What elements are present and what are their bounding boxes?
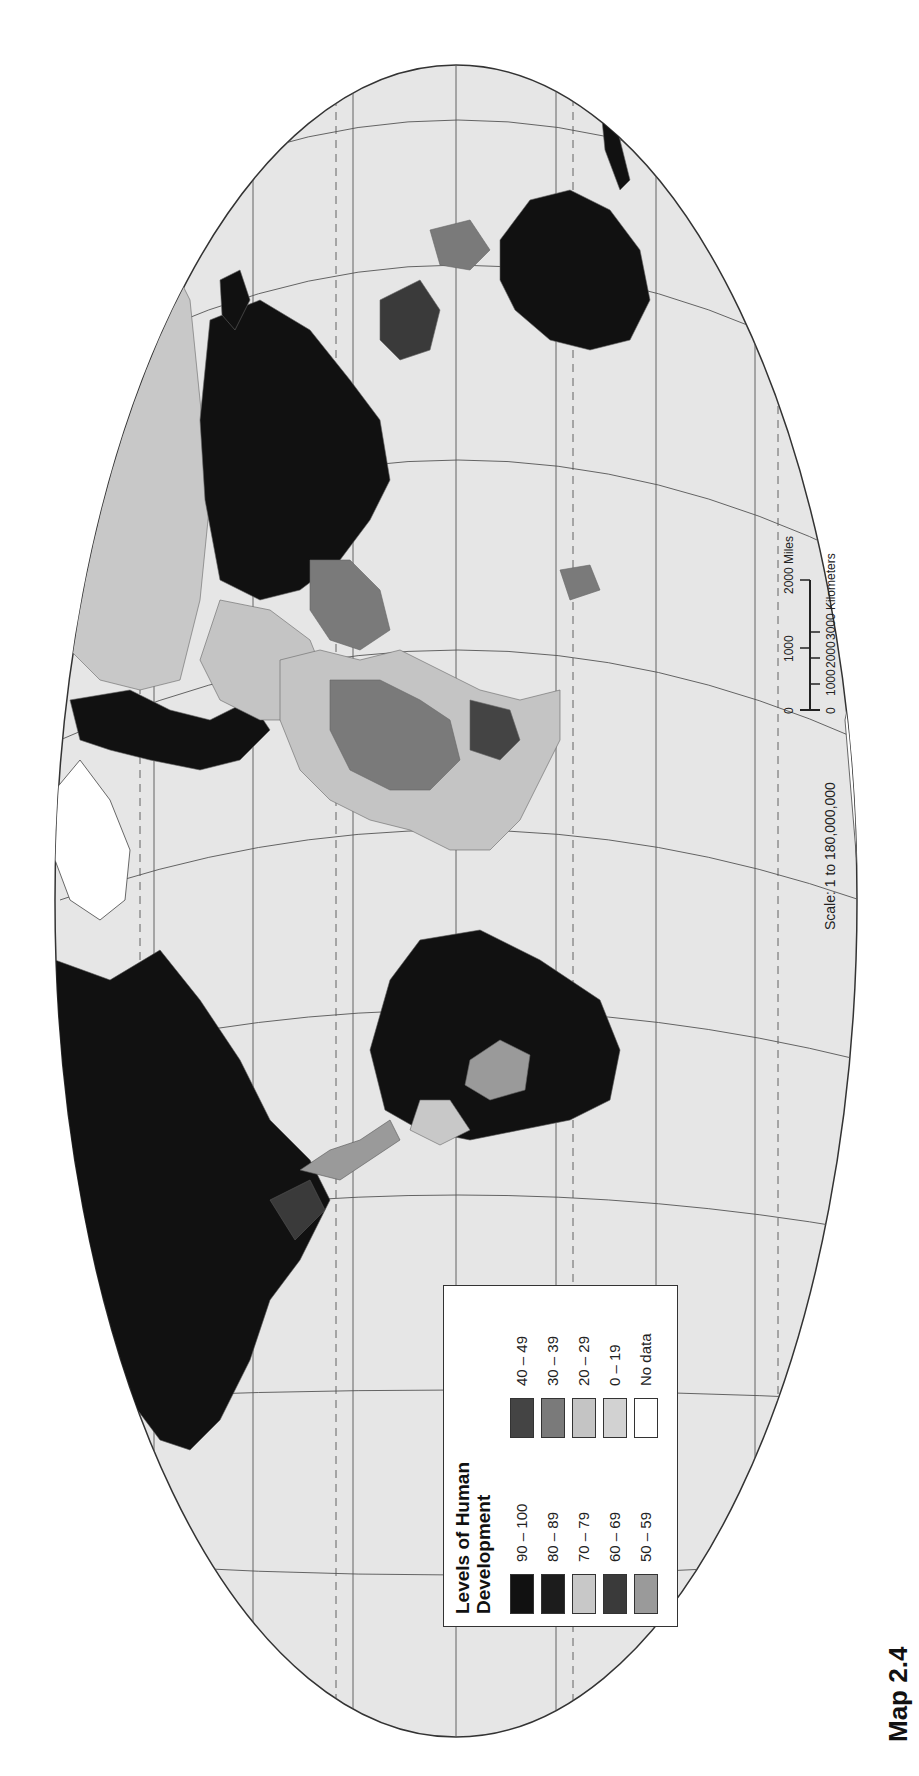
legend-item: 80 – 89 [537,1504,568,1614]
legend-label: No data [637,1333,654,1386]
legend-swatch [603,1574,627,1614]
legend-item: 20 – 29 [568,1333,599,1438]
legend-item: 40 – 49 [506,1333,537,1438]
legend-label: 30 – 39 [544,1336,561,1386]
legend-swatch [603,1398,627,1438]
legend-item: 30 – 39 [537,1333,568,1438]
scale-km-3000: 3000 Kilometers [824,553,838,640]
legend-swatch [634,1574,658,1614]
legend-label: 90 – 100 [513,1504,530,1562]
legend-swatch [541,1574,565,1614]
scale-bar-graphic [770,500,850,720]
legend-label: 50 – 59 [637,1512,654,1562]
legend-item: 0 – 19 [599,1333,630,1438]
scale-miles-1000: 1000 [782,635,796,662]
scale-km-2000: 2000 [824,641,838,668]
legend-swatch [634,1398,658,1438]
legend-swatch [572,1574,596,1614]
scale-miles-0: 0 [782,707,796,714]
legend-item: 60 – 69 [599,1504,630,1614]
map-label: Map 2.4 [880,1612,916,1742]
legend-swatch [510,1574,534,1614]
legend-item: 90 – 100 [506,1504,537,1614]
legend-label: 60 – 69 [606,1512,623,1562]
map-number: Map 2.4 [880,1612,916,1742]
legend-label: 80 – 89 [544,1512,561,1562]
legend-column-1: 90 – 100 80 – 89 70 – 79 60 – 69 50 – 59 [506,1504,661,1614]
legend-label: 0 – 19 [606,1344,623,1386]
legend: Levels of Human Development 90 – 100 80 … [443,1285,678,1627]
legend-title: Levels of Human Development [452,1294,494,1614]
legend-label: 40 – 49 [513,1336,530,1386]
legend-item: No data [630,1333,661,1438]
scale-text: Scale: 1 to 180,000,000 [822,782,838,930]
legend-item: 50 – 59 [630,1504,661,1614]
legend-item: 70 – 79 [568,1504,599,1614]
scale-km-1000: 1000 [824,669,838,696]
legend-label: 70 – 79 [575,1512,592,1562]
legend-swatch [572,1398,596,1438]
legend-column-2: 40 – 49 30 – 39 20 – 29 0 – 19 No data [506,1333,661,1438]
legend-swatch [541,1398,565,1438]
legend-label: 20 – 29 [575,1336,592,1386]
scale-miles-2000: 2000 Miles [782,536,796,594]
scale-km-0: 0 [824,707,838,714]
legend-swatch [510,1398,534,1438]
legend-title-line1: Levels of Human [452,1294,473,1614]
legend-title-line2: Development [473,1294,494,1614]
scale-bar: Scale: 1 to 180,000,000 0 1000 2000 Mile… [770,500,850,930]
